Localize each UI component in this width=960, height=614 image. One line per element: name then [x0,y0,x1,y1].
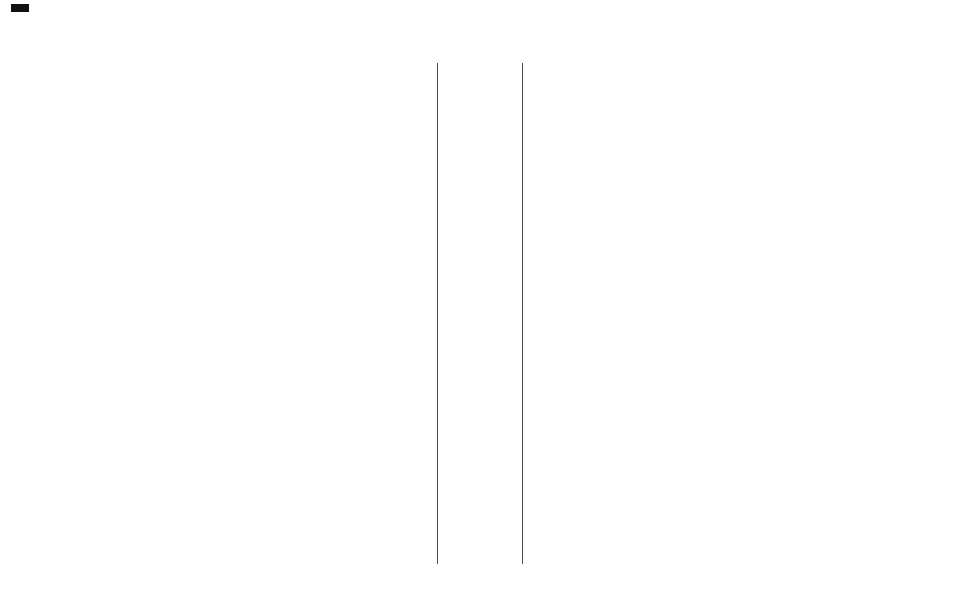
left-panel [38,63,437,564]
right-panel [523,63,927,564]
year-axis [437,63,523,564]
scan-artifact-mark [11,4,29,12]
left-panel-title [18,36,417,58]
right-panel-title [534,36,939,58]
chart-canvas [0,0,960,614]
